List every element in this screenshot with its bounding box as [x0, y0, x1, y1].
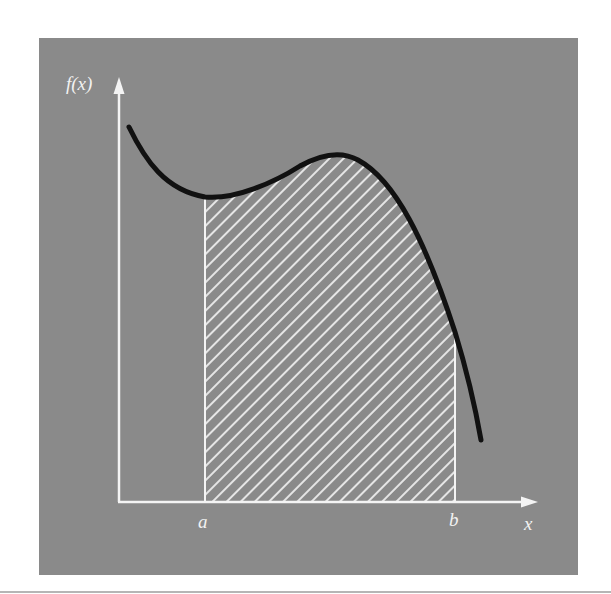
y-axis-label: f(x) [66, 74, 92, 93]
x-axis-arrow-icon [521, 497, 538, 508]
y-axis-arrow-icon [114, 77, 125, 94]
upper-limit-label: b [449, 510, 459, 529]
x-axis-label: x [524, 514, 532, 533]
bottom-divider [0, 591, 611, 593]
lower-limit-label: a [198, 512, 208, 531]
y-axis [114, 77, 125, 502]
